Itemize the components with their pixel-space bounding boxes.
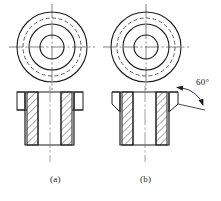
view-a-front-view [17,86,83,162]
flange-left-wing-a [17,92,25,110]
flange-left-wing-chamfered-b [112,92,120,112]
section-hatch-right-b [156,92,167,145]
engineering-drawing-sheet: 60° (a) (b) [0,0,221,201]
flange-right-wing-a [74,92,83,110]
flange-right-wing-chamfered-b [169,92,178,112]
view-a-top-view [9,4,95,90]
section-hatch-left-a [27,92,38,145]
figure-label-a: (a) [50,174,61,184]
figure-label-b: (b) [140,174,151,184]
section-hatch-right-a [61,92,72,145]
angle-arc-arrow [182,88,203,105]
chamfer-angle-dimension [178,88,205,110]
drawing-canvas [0,0,221,201]
angle-extension-line [178,104,205,110]
section-hatch-left-b [122,92,133,145]
chamfer-angle-label: 60° [196,77,209,87]
view-b-front-view [112,86,178,162]
view-b-top-view [103,4,189,90]
